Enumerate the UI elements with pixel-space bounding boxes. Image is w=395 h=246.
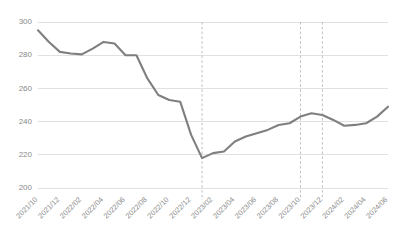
y-tick-label: 200	[19, 183, 33, 192]
y-tick-label: 240	[19, 117, 33, 126]
y-tick-label: 300	[19, 17, 33, 26]
y-tick-label: 280	[19, 50, 33, 59]
line-chart-figure: 300280260240220200 2021/102021/122022/02…	[0, 0, 395, 246]
y-tick-label: 260	[19, 84, 33, 93]
chart-canvas: 300280260240220200 2021/102021/122022/02…	[0, 0, 395, 246]
y-tick-label: 220	[19, 150, 33, 159]
